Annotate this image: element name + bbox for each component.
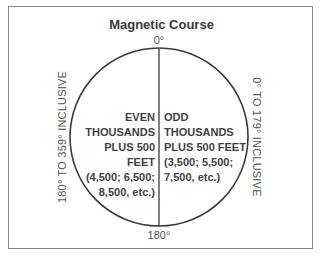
text-line: EVEN — [85, 110, 155, 125]
east-range-label: 0° TO 179° INCLUSIVE — [251, 77, 263, 196]
text-line: 8,500, etc.) — [85, 185, 155, 200]
west-range-label: 180° TO 359° INCLUSIVE — [56, 71, 68, 203]
odd-thousands-text: ODD THOUSANDS PLUS 500 FEET (3,500; 5,50… — [164, 110, 246, 185]
text-line: PLUS 500 FEET — [164, 140, 246, 155]
text-line: ODD — [164, 110, 246, 125]
text-line: 7,500, etc.) — [164, 170, 246, 185]
text-line: (4,500; 6,500; — [85, 170, 155, 185]
text-line: FEET — [85, 155, 155, 170]
course-circle — [0, 0, 323, 261]
text-line: THOUSANDS — [85, 125, 155, 140]
even-thousands-text: EVEN THOUSANDS PLUS 500 FEET (4,500; 6,5… — [85, 110, 155, 200]
text-line: (3,500; 5,500; — [164, 155, 246, 170]
text-line: PLUS 500 — [85, 140, 155, 155]
text-line: THOUSANDS — [164, 125, 246, 140]
